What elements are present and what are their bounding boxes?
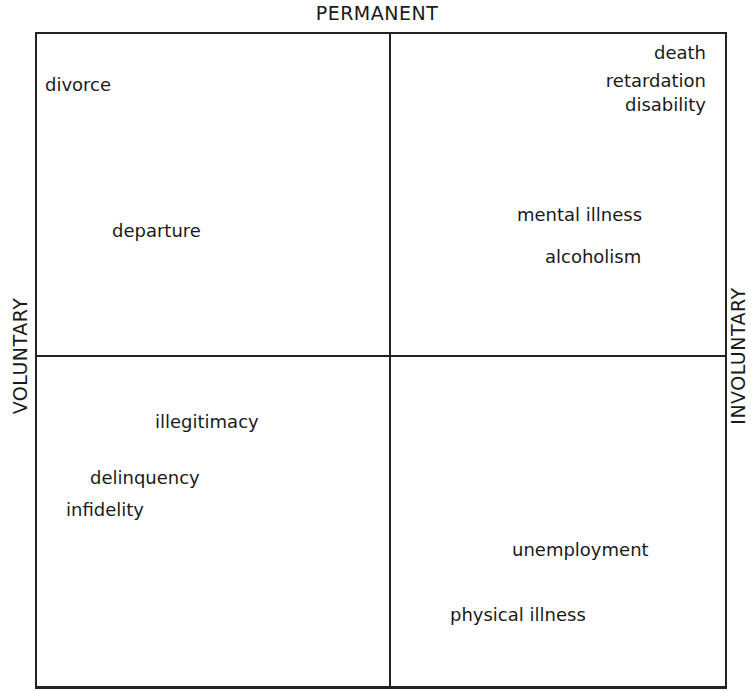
item-illegitimacy: illegitimacy <box>155 411 259 432</box>
item-disability: disability <box>625 94 706 115</box>
item-mental-illness: mental illness <box>517 204 642 225</box>
axis-label-voluntary: VOLUNTARY <box>9 298 31 415</box>
item-infidelity: infidelity <box>66 499 144 520</box>
axis-label-permanent: PERMANENT <box>0 2 754 24</box>
quadrant-frame <box>35 32 727 689</box>
item-delinquency: delinquency <box>90 467 200 488</box>
item-retardation: retardation <box>606 70 706 91</box>
item-divorce: divorce <box>45 74 111 95</box>
item-departure: departure <box>112 220 201 241</box>
item-death: death <box>654 42 706 63</box>
axis-label-involuntary: INVOLUNTARY <box>727 287 749 424</box>
item-physical-illness: physical illness <box>450 604 586 625</box>
vertical-divider <box>389 32 391 687</box>
item-alcoholism: alcoholism <box>545 246 641 267</box>
item-unemployment: unemployment <box>512 539 649 560</box>
horizontal-divider <box>35 355 725 357</box>
